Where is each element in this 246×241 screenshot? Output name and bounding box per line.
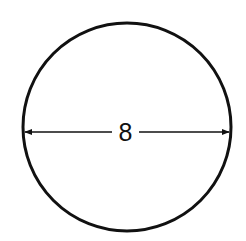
circle-diagram: 8: [0, 0, 246, 241]
diameter-label: 8: [119, 118, 133, 146]
